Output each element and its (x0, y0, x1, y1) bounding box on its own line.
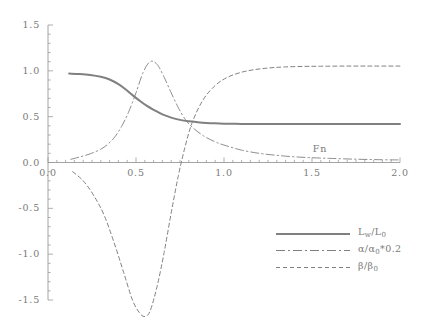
plot-canvas (0, 0, 426, 329)
x-tick-label: 0.5 (116, 167, 156, 178)
series-line-1 (71, 61, 400, 160)
chart-figure: -1.5-1.0-0.50.00.51.01.50.00.51.01.52.0 … (0, 0, 426, 329)
legend-line-sample (276, 250, 350, 251)
y-tick-label: 1.0 (22, 65, 40, 76)
legend-label: Lw/L0 (358, 226, 386, 237)
series-group (69, 61, 400, 316)
legend-item: β/β0 (276, 260, 416, 277)
x-axis-label: Fn (313, 143, 327, 154)
y-tick-label: -1.0 (18, 248, 40, 259)
legend-line-sample (276, 267, 350, 268)
legend-label: α/α0*0.2 (358, 243, 402, 254)
legend-line-sample (276, 233, 350, 235)
series-line-2 (73, 66, 400, 316)
x-tick-label: 2.0 (380, 167, 420, 178)
y-tick-label: -0.5 (18, 202, 40, 213)
legend-item: Lw/L0 (276, 226, 416, 243)
y-tick-label: 1.5 (22, 19, 40, 30)
x-tick-label: 1.0 (204, 167, 244, 178)
legend-item: α/α0*0.2 (276, 243, 416, 260)
x-tick-label: 1.5 (292, 167, 332, 178)
y-tick-label: -1.5 (18, 294, 40, 305)
chart-legend: Lw/L0α/α0*0.2β/β0 (276, 226, 416, 277)
series-line-0 (69, 74, 400, 124)
y-tick-label: 0.5 (22, 111, 40, 122)
legend-label: β/β0 (358, 260, 378, 271)
x-tick-label: 0.0 (28, 167, 68, 178)
